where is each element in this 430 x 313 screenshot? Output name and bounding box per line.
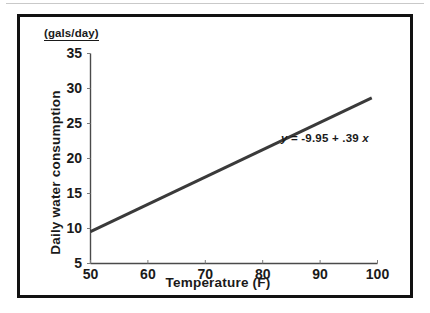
equation-slope: .39 [342,132,359,144]
x-tick-label: 60 [140,266,156,282]
equation-lhs: y [281,132,288,144]
y-tick-label: 25 [66,115,82,131]
y-tick-label: 10 [66,220,82,236]
x-tick-label: 70 [198,266,214,282]
y-tick-label: 5 [74,255,82,271]
equation-rhs-variable: x [362,132,369,144]
chart-plot-area: 35 30 25 20 15 10 5 [20,17,416,301]
y-tick-labels: 35 30 25 20 15 10 5 [66,45,82,271]
x-tick-label: 100 [366,266,390,282]
equation-intercept: -9.95 [301,132,328,144]
regression-equation-annotation: y = -9.95 + .39 x [281,132,369,144]
figure-frame: (gals/day) Daily water consumption Tempe… [17,14,413,298]
x-tick-label: 90 [312,266,328,282]
x-tick-label: 50 [83,266,99,282]
y-tick-label: 30 [66,80,82,96]
y-tick-label: 15 [66,185,82,201]
equation-equals: = [291,132,298,144]
page-top-rule [6,3,424,4]
x-tick-label: 80 [255,266,271,282]
y-tick-label: 35 [66,45,82,61]
x-tick-labels: 50 60 70 80 90 100 [83,266,390,282]
regression-line [91,98,372,232]
equation-plus: + [332,132,339,144]
y-tick-label: 20 [66,150,82,166]
